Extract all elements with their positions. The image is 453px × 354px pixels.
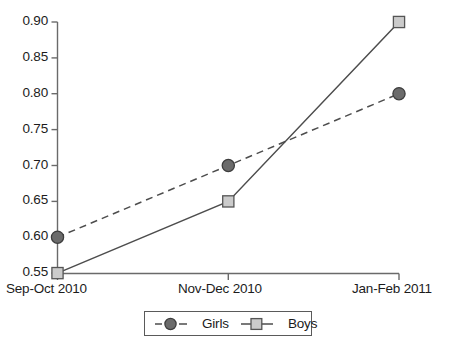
y-tick-label-0.55: 0.55 (0, 264, 48, 279)
series-markers-boys (52, 16, 405, 278)
x-tick-label-sep-oct-2010: Sep-Oct 2010 (6, 281, 87, 296)
x-tick-label-nov-dec-2010: Nov-Dec 2010 (178, 281, 262, 296)
legend-label-boys: Boys (288, 316, 317, 331)
x-axis-ticks (58, 274, 400, 281)
y-tick-label-0.75: 0.75 (0, 121, 48, 136)
chart-legend: Girls Boys (144, 311, 312, 336)
legend-entry-boys[interactable]: Boys (240, 312, 317, 335)
x-tick-label-jan-feb-2011: Jan-Feb 2011 (352, 281, 432, 296)
chart-figure: 0.90 0.85 0.80 0.75 0.70 0.65 0.60 0.55 … (0, 0, 453, 354)
y-tick-label-0.70: 0.70 (0, 157, 48, 172)
series-markers-girls (51, 88, 405, 244)
legend-entry-girls[interactable]: Girls (154, 312, 229, 335)
y-tick-label-0.65: 0.65 (0, 192, 48, 207)
y-tick-label-0.90: 0.90 (0, 13, 48, 28)
series-line-boys (58, 22, 400, 273)
legend-marker-boys-icon (240, 316, 280, 332)
y-tick-label-0.60: 0.60 (0, 228, 48, 243)
line-chart-plot (0, 0, 453, 354)
legend-marker-girls-icon (154, 316, 194, 332)
y-tick-label-0.80: 0.80 (0, 85, 48, 100)
y-tick-label-0.85: 0.85 (0, 49, 48, 64)
legend-label-girls: Girls (202, 316, 229, 331)
